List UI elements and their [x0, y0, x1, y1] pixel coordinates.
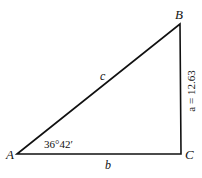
triangle-shape	[17, 24, 181, 154]
side-label-b: b	[105, 158, 111, 172]
vertex-label-b: B	[175, 7, 183, 22]
vertex-label-c: C	[185, 147, 194, 162]
side-label-c: c	[100, 69, 106, 83]
vertex-label-a: A	[5, 147, 14, 162]
angle-label-a: 36°42′	[44, 138, 73, 150]
triangle-diagram: A B C c b 36°42′ a = 12.63	[0, 0, 202, 178]
side-label-a-value: a = 12.63	[185, 70, 197, 112]
